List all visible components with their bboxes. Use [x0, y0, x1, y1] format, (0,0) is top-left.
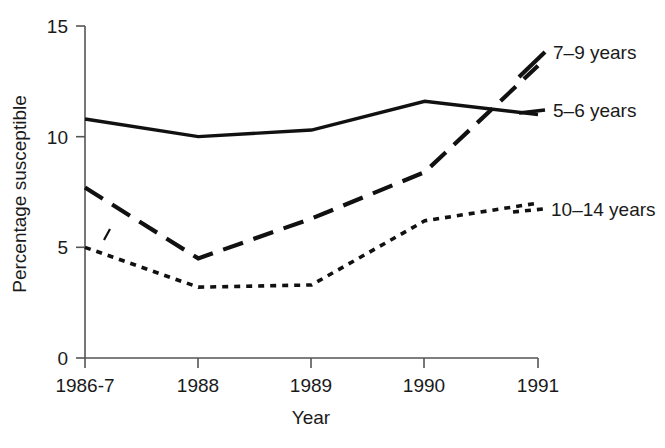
x-tick-label-1991: 1991 — [517, 375, 559, 396]
legend-label-7-9-years: 7–9 years — [553, 42, 636, 63]
x-tick-label-1988: 1988 — [177, 375, 219, 396]
x-axis-title: Year — [292, 407, 331, 428]
x-tick-label-1989: 1989 — [290, 375, 332, 396]
y-tick-label-15: 15 — [47, 16, 68, 37]
legend-label-5-6-years: 5–6 years — [553, 100, 636, 121]
y-axis-title: Percentage susceptible — [9, 95, 30, 293]
stray-mark — [104, 229, 110, 240]
x-tick-label-1986-7: 1986-7 — [55, 375, 114, 396]
series-line-10-14-years — [85, 203, 538, 287]
series-line-7-9-years — [85, 66, 538, 259]
legend-label-10-14-years: 10–14 years — [551, 199, 656, 220]
line-chart: 15 10 5 0 1986-7 1988 1989 1990 1991 Yea… — [0, 0, 665, 448]
x-tick-label-1990: 1990 — [403, 375, 445, 396]
y-tick-label-0: 0 — [57, 348, 68, 369]
y-tick-label-5: 5 — [57, 237, 68, 258]
y-tick-label-10: 10 — [47, 127, 68, 148]
chart-canvas: 15 10 5 0 1986-7 1988 1989 1990 1991 Yea… — [0, 0, 665, 448]
legend-swatch-10-14-years — [513, 209, 543, 212]
legend-swatch-5-6-years — [519, 110, 545, 113]
